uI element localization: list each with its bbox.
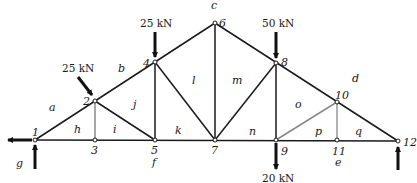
joint-7 — [213, 138, 217, 142]
region-label-a: a — [49, 101, 56, 114]
load-label-node9: 20 kN — [262, 172, 294, 183]
region-label-b: b — [118, 62, 125, 75]
joint-11 — [335, 138, 339, 142]
region-label-l: l — [192, 74, 196, 87]
member-7-8 — [215, 63, 276, 140]
load-label-node2: 25 kN — [62, 62, 94, 74]
region-label-c: c — [211, 0, 217, 12]
member-9-10 — [276, 102, 337, 140]
region-label-j: j — [130, 98, 137, 111]
node-label-4: 4 — [142, 57, 150, 70]
node-label-6: 6 — [219, 17, 226, 30]
joint-3 — [93, 138, 97, 142]
joint-12 — [396, 139, 400, 143]
node-label-8: 8 — [281, 56, 288, 69]
joint-4 — [153, 60, 157, 64]
region-label-q: q — [355, 125, 362, 138]
load-label-node4: 25 kN — [140, 17, 172, 29]
member-4-7 — [155, 62, 215, 140]
truss-members — [35, 23, 398, 141]
joint-6 — [213, 21, 217, 25]
region-label-k: k — [175, 124, 182, 137]
node-label-2: 2 — [82, 95, 90, 108]
joint-2 — [93, 99, 97, 103]
load-label-node8: 50 kN — [262, 17, 294, 29]
region-label-e: e — [335, 156, 342, 169]
joint-8 — [274, 61, 278, 65]
region-label-o: o — [295, 98, 302, 111]
truss-diagram: 25 kN 25 kN 50 kN 20 kN 1 2 3 4 5 6 7 8 … — [0, 0, 417, 183]
joint-9 — [274, 138, 278, 142]
region-label-m: m — [232, 74, 242, 87]
node-label-7: 7 — [211, 144, 218, 157]
node-label-9: 9 — [281, 145, 288, 158]
region-label-d: d — [352, 72, 359, 85]
load-arrow-node2 — [78, 77, 92, 95]
region-label-g: g — [16, 157, 23, 170]
member-1-6 — [35, 23, 215, 140]
joint-5 — [153, 138, 157, 142]
region-label-h: h — [74, 123, 81, 136]
member-6-12 — [215, 23, 398, 141]
region-label-p: p — [315, 125, 322, 138]
member-2-5 — [95, 101, 155, 140]
node-label-3: 3 — [91, 144, 98, 157]
region-label-i: i — [113, 123, 117, 136]
region-label-n: n — [249, 125, 256, 138]
region-label-f: f — [151, 156, 158, 169]
truss-joints — [33, 21, 400, 143]
node-label-12: 12 — [403, 136, 417, 149]
node-label-10: 10 — [335, 89, 349, 102]
node-label-1: 1 — [32, 126, 39, 139]
